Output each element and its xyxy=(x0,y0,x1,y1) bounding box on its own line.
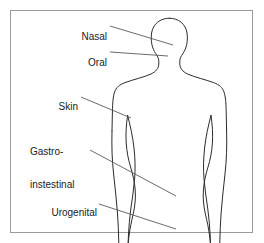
right-torso-side-outline xyxy=(203,115,212,243)
right-arm-outer-outline xyxy=(220,131,227,243)
label-gastrointestinal-line-1: Gastro- xyxy=(30,146,74,157)
leader-line-nasal xyxy=(110,26,173,45)
body-outline-group xyxy=(112,18,227,243)
head-and-right-side-outline xyxy=(170,18,227,131)
label-oral-text: Oral xyxy=(88,57,107,68)
label-skin-text: Skin xyxy=(59,101,78,112)
label-urogenital-text: Urogenital xyxy=(51,207,97,218)
leader-line-urogenital xyxy=(99,204,176,229)
label-skin: Skin xyxy=(0,90,78,123)
left-torso-side-outline xyxy=(126,115,135,243)
leader-line-gastrointestinal xyxy=(90,150,176,196)
label-oral: Oral xyxy=(0,46,107,79)
left-arm-outer-outline xyxy=(112,131,119,243)
label-gastrointestinal-line-2: instestinal xyxy=(30,179,74,190)
leader-line-oral xyxy=(110,52,168,56)
leader-line-skin xyxy=(81,97,131,118)
anatomy-figure: Nasal Oral Skin Gastro- instestinal Urog… xyxy=(0,0,264,243)
label-nasal-text: Nasal xyxy=(81,31,107,42)
label-urogenital: Urogenital xyxy=(0,196,97,229)
